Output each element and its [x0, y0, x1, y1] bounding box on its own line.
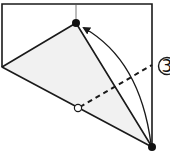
origami-diagram: 3	[0, 0, 170, 158]
folded-flap	[2, 23, 152, 147]
hollow-point-icon	[74, 104, 81, 111]
step-number-label: 3	[162, 56, 170, 76]
target-dot-icon	[72, 19, 80, 27]
step-number-badge: 3	[159, 56, 171, 76]
start-dot-icon	[148, 143, 156, 151]
